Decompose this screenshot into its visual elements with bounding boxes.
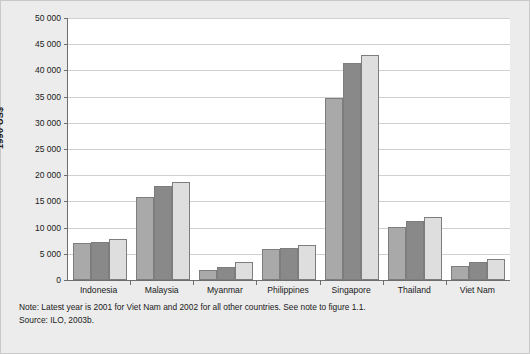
bar-group xyxy=(262,18,316,280)
x-axis-tick xyxy=(130,281,131,285)
y-axis-tick-label: 15 000 xyxy=(1,196,61,206)
bar-group xyxy=(136,18,190,280)
y-axis-tick-label: 50 000 xyxy=(1,13,61,23)
bar xyxy=(325,98,343,280)
y-axis-tick xyxy=(64,175,68,176)
bar xyxy=(469,262,487,280)
bar xyxy=(91,242,109,280)
y-axis-tick xyxy=(64,149,68,150)
y-axis-tick-label: 0 xyxy=(1,275,61,285)
chart-figure: 1990 US$ 05 00010 00015 00020 00025 0003… xyxy=(0,0,530,354)
x-axis-category-label: Philippines xyxy=(267,285,309,295)
plot-inner xyxy=(68,18,510,280)
y-axis-tick-label: 10 000 xyxy=(1,223,61,233)
note-text: Note: Latest year is 2001 for Viet Nam a… xyxy=(19,301,519,314)
bar xyxy=(298,245,316,280)
bar-group xyxy=(451,18,505,280)
bar xyxy=(172,182,190,281)
bar-group xyxy=(325,18,379,280)
y-axis-tick xyxy=(64,280,68,281)
bar xyxy=(217,267,235,280)
y-axis-tick xyxy=(64,201,68,202)
x-axis-category-label: Myanmar xyxy=(207,285,243,295)
bar-group xyxy=(199,18,253,280)
y-axis-tick-label: 25 000 xyxy=(1,144,61,154)
bar xyxy=(235,262,253,280)
x-axis-category-label: Singapore xyxy=(332,285,371,295)
bar xyxy=(280,248,298,280)
y-axis-tick xyxy=(64,18,68,19)
bar xyxy=(361,55,379,280)
bar-group xyxy=(73,18,127,280)
x-axis-category-label: Indonesia xyxy=(80,285,117,295)
y-axis-tick-label: 5 000 xyxy=(1,249,61,259)
x-axis-tick xyxy=(256,281,257,285)
x-axis-tick xyxy=(193,281,194,285)
bar xyxy=(136,197,154,280)
bar xyxy=(262,249,280,280)
y-axis-tick xyxy=(64,97,68,98)
bar xyxy=(388,227,406,280)
x-axis-tick xyxy=(383,281,384,285)
bar xyxy=(343,63,361,280)
x-axis-category-label: Malaysia xyxy=(145,285,179,295)
y-axis-tick xyxy=(64,254,68,255)
y-axis-tick xyxy=(64,70,68,71)
y-axis-tick xyxy=(64,228,68,229)
bar xyxy=(73,243,91,280)
bar xyxy=(451,266,469,280)
bar-group xyxy=(388,18,442,280)
bar xyxy=(154,186,172,280)
source-text: Source: ILO, 2003b. xyxy=(19,314,519,327)
figure-notes: Note: Latest year is 2001 for Viet Nam a… xyxy=(19,301,519,326)
bar xyxy=(109,239,127,280)
y-axis-tick xyxy=(64,123,68,124)
bar xyxy=(424,217,442,280)
y-axis-tick-label: 30 000 xyxy=(1,118,61,128)
y-axis-tick xyxy=(64,44,68,45)
y-axis-tick-label: 20 000 xyxy=(1,170,61,180)
x-axis-tick xyxy=(446,281,447,285)
x-axis-tick xyxy=(320,281,321,285)
y-axis-tick-label: 35 000 xyxy=(1,92,61,102)
bar xyxy=(199,270,217,280)
bar xyxy=(487,259,505,280)
bar xyxy=(406,221,424,280)
x-axis-category-label: Viet Nam xyxy=(460,285,495,295)
x-axis-category-label: Thailand xyxy=(398,285,431,295)
y-axis-tick-label: 40 000 xyxy=(1,65,61,75)
plot-area xyxy=(67,18,510,281)
y-axis-tick-label: 45 000 xyxy=(1,39,61,49)
